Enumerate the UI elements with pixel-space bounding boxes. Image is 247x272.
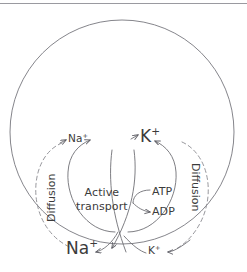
label-adp: ADP [152,206,175,217]
label-na-bottom-charge: + [89,237,98,249]
label-k-bottom: K+ [148,245,161,256]
label-k-bottom-charge: + [155,244,161,252]
atp-input-arrow [133,190,150,203]
label-k-bottom-ion: K [148,244,155,256]
k-bottom-inbound-arrow [168,240,190,252]
na-top-arrowhead [60,140,66,143]
label-k-top: K+ [140,128,160,145]
label-atp: ATP [152,186,172,197]
diagram-canvas [0,0,247,272]
label-diffusion-right: Diffusion [189,163,202,212]
top-divider-rule [0,3,247,4]
k-top-arrowhead [131,135,138,139]
label-k-top-ion: K [140,126,151,146]
k-bottom-connector [124,236,146,253]
label-na-bottom-ion: Na [66,238,89,258]
sodium-potassium-pump-diagram: Na+ K+ Na+ K+ ATP ADP Active transport D… [0,0,247,272]
label-na-top-ion: Na [68,132,83,144]
label-k-top-charge: + [151,125,160,137]
label-diffusion-left: Diffusion [45,173,58,222]
adp-output-arrow [133,203,150,212]
label-active-transport-line2: transport [76,200,128,214]
label-active-transport: Active transport [76,186,128,214]
label-active-transport-line1: Active [76,186,128,200]
label-na-top-charge: + [83,132,89,140]
label-na-top: Na+ [68,133,88,144]
label-na-bottom: Na+ [66,240,98,257]
